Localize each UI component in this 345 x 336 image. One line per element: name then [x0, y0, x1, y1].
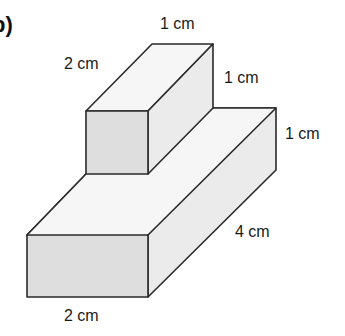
label-base-width: 2 cm: [64, 308, 99, 324]
label-base-depth: 4 cm: [235, 224, 270, 240]
label-base-height: 1 cm: [285, 126, 320, 142]
label-top-box-depth: 2 cm: [64, 56, 99, 72]
composite-solid-diagram: [0, 0, 345, 336]
base-front-face: [27, 235, 148, 297]
label-top-box-height: 1 cm: [224, 70, 259, 86]
label-top-box-width: 1 cm: [160, 16, 195, 32]
top-box-front-face: [86, 111, 148, 174]
